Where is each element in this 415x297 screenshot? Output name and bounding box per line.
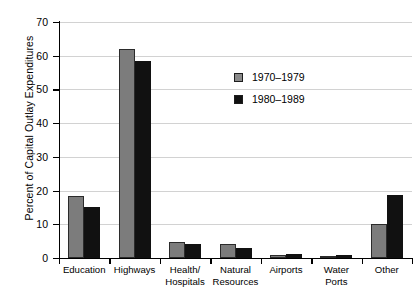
legend-item-1: 1980–1989 bbox=[234, 88, 305, 110]
bar-3-series-0 bbox=[220, 244, 236, 258]
bar-chart: Percent of Capital Outlay Expenditures 0… bbox=[0, 0, 415, 297]
category-label-line: Resources bbox=[202, 276, 268, 288]
y-tick-label-60: 60 bbox=[8, 50, 48, 62]
bar-5-series-0 bbox=[320, 256, 336, 258]
y-tick-label-40: 40 bbox=[8, 117, 48, 129]
legend-swatch-black-icon bbox=[234, 95, 243, 104]
bar-5-series-1 bbox=[336, 255, 352, 258]
bar-2-series-1 bbox=[185, 244, 201, 258]
legend-swatch-gray-icon bbox=[234, 73, 243, 82]
y-tick-label-50: 50 bbox=[8, 83, 48, 95]
y-tick-label-70: 70 bbox=[8, 16, 48, 28]
bar-3-series-1 bbox=[236, 248, 252, 258]
category-label-line: Ports bbox=[303, 276, 369, 288]
x-axis-line bbox=[59, 258, 412, 259]
bar-1-series-0 bbox=[119, 49, 135, 258]
bar-2-series-0 bbox=[169, 242, 185, 258]
y-tick-label-10: 10 bbox=[8, 218, 48, 230]
y-tick-label-20: 20 bbox=[8, 185, 48, 197]
legend-label-0: 1970–1979 bbox=[252, 71, 305, 83]
legend-label-1: 1980–1989 bbox=[252, 93, 305, 105]
y-tick-label-30: 30 bbox=[8, 151, 48, 163]
bar-0-series-0 bbox=[68, 196, 84, 258]
bar-6-series-0 bbox=[371, 224, 387, 258]
legend-item-0: 1970–1979 bbox=[234, 66, 305, 88]
y-tick-label-0: 0 bbox=[8, 252, 48, 264]
legend: 1970–1979 1980–1989 bbox=[234, 66, 305, 110]
bar-series-layer bbox=[59, 22, 412, 258]
bar-6-series-1 bbox=[387, 195, 403, 258]
category-label-line: Other bbox=[354, 264, 415, 276]
bar-4-series-1 bbox=[286, 254, 302, 258]
bar-0-series-1 bbox=[84, 207, 100, 258]
bar-1-series-1 bbox=[135, 61, 151, 258]
bar-4-series-0 bbox=[270, 255, 286, 258]
category-label-6: Other bbox=[354, 264, 415, 276]
